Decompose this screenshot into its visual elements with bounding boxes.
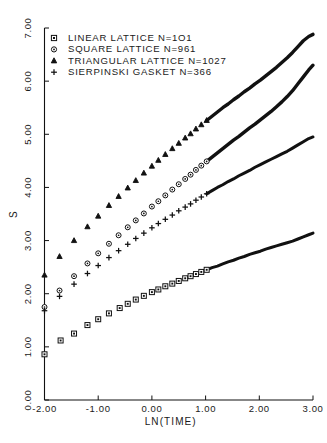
marker-square [106, 311, 111, 316]
marker-circle [141, 211, 146, 216]
y-axis-ticks [45, 28, 50, 400]
x-axis-ticks [45, 396, 314, 401]
marker-plus [193, 197, 199, 203]
marker-square [58, 338, 63, 343]
entropy-vs-log-time-chart: 0.001.002.003.004.005.006.007.00 -2.00-1… [0, 0, 327, 443]
series-dense-tail [207, 137, 313, 194]
marker-plus [156, 221, 162, 227]
marker-circle [199, 163, 204, 168]
y-tick-label: 7.00 [22, 18, 33, 39]
marker-circle [85, 261, 90, 266]
marker-circle [193, 167, 198, 172]
marker-circle [163, 193, 168, 198]
marker-triangle [125, 185, 130, 190]
x-tick-label: -2.00 [32, 403, 57, 414]
marker-plus [106, 255, 112, 261]
marker-square [163, 284, 168, 289]
marker-plus [71, 281, 77, 287]
marker-triangle [188, 131, 193, 136]
marker-triangle [116, 194, 121, 199]
marker-square [42, 352, 47, 357]
marker-circle [51, 47, 56, 52]
marker-circle [116, 233, 121, 238]
marker-square [125, 301, 130, 306]
series-circle [42, 65, 313, 309]
legend-label: LINEAR LATTICE N=1O1 [68, 32, 192, 43]
marker-square [85, 323, 90, 328]
marker-square [204, 267, 209, 272]
marker-triangle [176, 140, 181, 145]
marker-circle [125, 225, 130, 230]
series-dense-tail [207, 233, 313, 270]
legend-label: SQUARE LATTICE N=961 [68, 43, 196, 54]
y-axis-title: S [8, 210, 19, 218]
series-dense-tail [207, 34, 313, 120]
marker-circle [96, 251, 101, 256]
marker-triangle [149, 163, 154, 168]
marker-circle [204, 159, 209, 164]
marker-square [199, 269, 204, 274]
marker-triangle [85, 224, 90, 229]
marker-square [72, 331, 77, 336]
marker-circle [176, 182, 181, 187]
marker-triangle [163, 152, 168, 157]
x-axis-tick-labels: -2.00-1.000.001.002.003.00 [32, 403, 323, 414]
x-tick-label: 1.00 [195, 403, 216, 414]
marker-square [183, 276, 188, 281]
chart-legend: LINEAR LATTICE N=1O1SQUARE LATTICE N=961… [51, 32, 226, 77]
y-tick-label: 3.00 [22, 230, 33, 251]
marker-circle [183, 176, 188, 181]
marker-triangle [96, 213, 101, 218]
marker-plus [95, 263, 101, 269]
marker-circle [106, 241, 111, 246]
marker-plus [163, 217, 169, 223]
legend-label: TRIANGULAR LATTICE N=1027 [68, 55, 227, 66]
marker-circle [133, 218, 138, 223]
y-tick-label: 0.00 [22, 390, 33, 411]
marker-triangle [170, 146, 175, 151]
marker-plus [176, 208, 182, 214]
legend-label: SIERPINSKI GASKET N=366 [68, 66, 212, 77]
marker-plus [188, 201, 194, 207]
x-tick-label: 3.00 [303, 403, 324, 414]
marker-square [133, 297, 138, 302]
marker-square [188, 274, 193, 279]
marker-triangle [133, 178, 138, 183]
marker-triangle [183, 135, 188, 140]
marker-square [149, 290, 154, 295]
x-axis-title: LN(TIME) [145, 416, 197, 427]
x-tick-label: 0.00 [141, 403, 162, 414]
axes-group [45, 28, 314, 400]
marker-triangle [193, 126, 198, 131]
marker-square [117, 306, 122, 311]
y-tick-label: 5.00 [22, 124, 33, 145]
marker-triangle [156, 157, 161, 162]
data-series-layer [42, 34, 313, 356]
marker-plus [57, 294, 63, 300]
marker-triangle [57, 254, 62, 259]
marker-triangle [199, 122, 204, 127]
figure-panel: 0.001.002.003.004.005.006.007.00 -2.00-1… [0, 0, 327, 443]
marker-square [170, 281, 175, 286]
marker-plus [85, 271, 91, 277]
marker-circle [72, 274, 77, 279]
y-tick-label: 1.00 [22, 336, 33, 357]
marker-triangle [42, 272, 47, 277]
marker-circle [57, 288, 62, 293]
series-square [42, 233, 313, 357]
marker-plus [149, 225, 155, 231]
marker-triangle [71, 238, 76, 243]
marker-triangle [51, 58, 56, 63]
marker-square [156, 287, 161, 292]
marker-circle [170, 187, 175, 192]
marker-square [193, 272, 198, 277]
y-tick-label: 6.00 [22, 71, 33, 92]
marker-triangle [106, 203, 111, 208]
marker-square [51, 35, 56, 40]
x-tick-label: 2.00 [249, 403, 270, 414]
marker-circle [156, 199, 161, 204]
marker-plus [170, 212, 176, 218]
marker-plus [199, 194, 205, 200]
marker-plus [141, 230, 147, 236]
marker-circle [188, 172, 193, 177]
